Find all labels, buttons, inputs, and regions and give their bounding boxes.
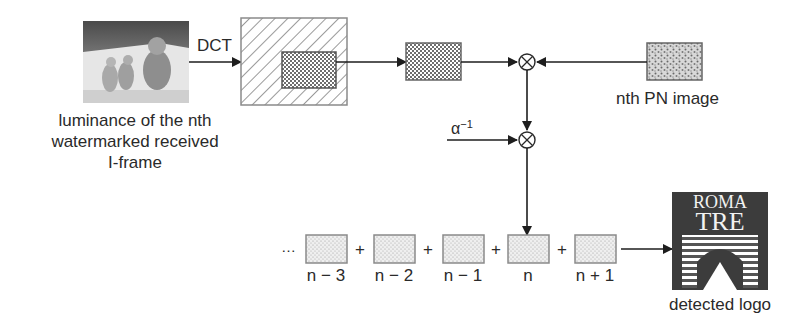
frame-box-n [508, 235, 549, 263]
caption-line-2: watermarked received [20, 131, 250, 152]
logo-text-tre: TRE [672, 209, 768, 235]
pn-image-block [647, 43, 702, 80]
frame-label-n: n [498, 266, 558, 286]
pn-image-label: nth PN image [616, 89, 719, 109]
frame-box-n-2 [374, 235, 415, 263]
frame-label-n-3: n − 3 [296, 266, 356, 286]
alpha-symbol: α [451, 120, 460, 137]
dct-coefficients-block [241, 18, 347, 105]
sequence-ellipsis: … [281, 238, 296, 255]
sequence-boxes [306, 235, 616, 263]
multiplier-2-icon [519, 132, 535, 148]
alpha-inverse-label: α−1 [451, 118, 473, 138]
plus-sign-2: + [423, 240, 433, 260]
caption-line-1: luminance of the nth [20, 110, 250, 131]
alpha-exponent: −1 [460, 118, 473, 130]
dct-label: DCT [197, 36, 232, 56]
caption-line-3: I-frame [20, 152, 250, 173]
multiplier-1-icon [519, 54, 535, 70]
detected-logo-caption: detected logo [650, 295, 790, 315]
plus-sign-3: + [491, 240, 501, 260]
frame-label-n+1: n + 1 [565, 266, 625, 286]
frame-box-n+1 [575, 235, 616, 263]
frame-box-n-1 [443, 235, 484, 263]
frame-box-n-3 [306, 235, 347, 263]
frame-label-n-2: n − 2 [364, 266, 424, 286]
plus-sign-4: + [557, 240, 567, 260]
plus-sign-1: + [355, 240, 365, 260]
frame-label-n-1: n − 1 [433, 266, 493, 286]
input-frame-caption: luminance of the nth watermarked receive… [20, 110, 250, 173]
input-frame-thumbnail [83, 21, 189, 103]
extracted-coefficients-block [406, 43, 461, 80]
